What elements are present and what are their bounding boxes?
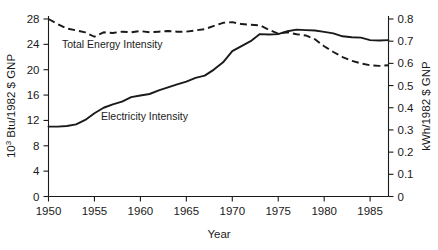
y-axis-title-left: 103 Btu/1982 $ GNP — [4, 54, 17, 159]
x-tick-label: 1965 — [174, 205, 200, 217]
x-axis-tick-labels: 19501955196019651970197519801985 — [36, 205, 383, 217]
series-label-total-energy-intensity: Total Energy Intensity — [62, 38, 163, 50]
left-tick-label: 16 — [27, 89, 40, 101]
x-axis: 19501955196019651970197519801985 — [36, 197, 389, 217]
right-tick-label: 0.7 — [398, 35, 414, 47]
left-tick-label: 0 — [33, 191, 39, 203]
left-axis-tick-labels: 0481216202428 — [27, 13, 40, 203]
x-tick-label: 1975 — [265, 205, 291, 217]
right-tick-label: 0.6 — [398, 57, 414, 69]
left-tick-label: 24 — [27, 38, 40, 50]
series-label-electricity-intensity: Electricity Intensity — [101, 110, 189, 122]
right-tick-label: 0 — [398, 191, 404, 203]
right-axis-tick-labels: 00.10.20.30.40.50.60.70.8 — [398, 13, 415, 203]
left-tick-label: 12 — [27, 114, 40, 126]
right-tick-label: 0.4 — [398, 102, 415, 114]
left-axis-ticks — [44, 19, 49, 197]
y-axis-title-left-rest: Btu/1982 $ GNP — [5, 54, 17, 141]
right-tick-label: 0.5 — [398, 80, 414, 92]
x-tick-label: 1955 — [82, 205, 108, 217]
y-axis-title-right: kWh/1982 $ GNP — [420, 61, 432, 151]
left-tick-label: 28 — [27, 13, 40, 25]
right-tick-label: 0.1 — [398, 168, 414, 180]
x-axis-title: Year — [207, 228, 230, 240]
energy-intensity-chart: 0481216202428 00.10.20.30.40.50.60.70.8 … — [0, 0, 438, 250]
x-tick-label: 1970 — [219, 205, 245, 217]
x-tick-label: 1985 — [357, 205, 383, 217]
plot-series — [49, 19, 389, 127]
x-axis-ticks — [49, 197, 371, 202]
right-tick-label: 0.8 — [398, 13, 414, 25]
left-axis: 0481216202428 — [27, 13, 49, 203]
y-axis-title-left-base: 10 — [5, 145, 17, 158]
x-tick-label: 1950 — [36, 205, 62, 217]
svg-text:103 Btu/1982 $ GNP: 103 Btu/1982 $ GNP — [4, 54, 17, 159]
right-tick-label: 0.2 — [398, 146, 414, 158]
left-tick-label: 20 — [27, 64, 40, 76]
right-tick-label: 0.3 — [398, 124, 414, 136]
left-tick-label: 8 — [33, 140, 39, 152]
right-axis-ticks — [389, 19, 394, 197]
left-tick-label: 4 — [33, 165, 40, 177]
x-tick-label: 1980 — [311, 205, 337, 217]
right-axis: 00.10.20.30.40.50.60.70.8 — [389, 13, 415, 203]
chart-canvas: 0481216202428 00.10.20.30.40.50.60.70.8 … — [0, 0, 438, 250]
x-tick-label: 1960 — [128, 205, 154, 217]
